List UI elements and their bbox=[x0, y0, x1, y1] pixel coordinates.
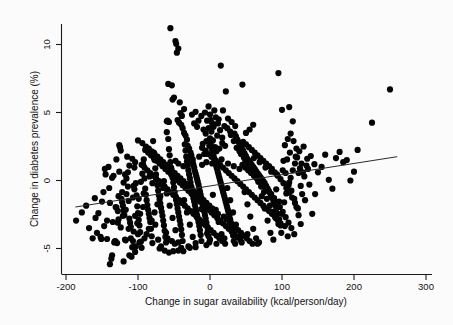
x-tick-label: -200 bbox=[56, 281, 75, 292]
data-point bbox=[190, 234, 196, 240]
data-point bbox=[177, 99, 183, 105]
data-point bbox=[119, 189, 125, 195]
data-point bbox=[169, 238, 175, 244]
data-point bbox=[308, 153, 314, 159]
data-point bbox=[92, 195, 98, 201]
y-tick-label: 10 bbox=[41, 39, 52, 50]
data-point bbox=[220, 107, 226, 113]
data-point bbox=[244, 201, 250, 207]
data-point bbox=[126, 252, 132, 258]
data-point bbox=[257, 159, 263, 165]
data-point bbox=[103, 171, 109, 177]
data-point bbox=[172, 227, 178, 233]
data-point bbox=[286, 104, 292, 110]
data-point bbox=[344, 157, 350, 163]
data-point bbox=[285, 233, 291, 239]
data-point bbox=[123, 207, 129, 213]
data-point bbox=[141, 235, 147, 241]
data-point bbox=[224, 185, 230, 191]
data-point bbox=[190, 156, 196, 162]
data-point bbox=[329, 186, 335, 192]
data-point bbox=[301, 143, 307, 149]
data-point bbox=[203, 159, 209, 165]
data-point bbox=[288, 130, 294, 136]
data-point bbox=[280, 167, 286, 173]
data-point bbox=[73, 218, 79, 224]
data-point bbox=[169, 215, 175, 221]
data-point bbox=[187, 222, 193, 228]
data-point bbox=[92, 215, 98, 221]
data-point bbox=[125, 184, 131, 190]
data-point bbox=[244, 231, 250, 237]
data-point bbox=[217, 127, 223, 133]
data-point bbox=[161, 222, 167, 228]
data-point bbox=[273, 186, 279, 192]
data-point bbox=[177, 110, 183, 116]
data-point bbox=[210, 192, 216, 198]
data-point bbox=[290, 138, 296, 144]
data-point bbox=[298, 183, 304, 189]
data-point bbox=[86, 225, 92, 231]
data-point bbox=[194, 124, 200, 130]
data-point bbox=[154, 201, 160, 207]
data-point bbox=[295, 212, 301, 218]
data-point bbox=[140, 204, 146, 210]
data-point bbox=[113, 204, 119, 210]
x-tick-label: 300 bbox=[418, 281, 434, 292]
data-point bbox=[107, 261, 113, 267]
data-point bbox=[302, 197, 308, 203]
data-point bbox=[293, 145, 299, 151]
data-point bbox=[109, 252, 115, 258]
data-point bbox=[99, 198, 105, 204]
y-tick-label: 0 bbox=[41, 178, 52, 183]
data-point bbox=[210, 137, 216, 143]
data-point bbox=[293, 154, 299, 160]
data-point bbox=[193, 109, 199, 115]
data-point bbox=[289, 194, 295, 200]
data-point bbox=[337, 149, 343, 155]
data-point bbox=[287, 150, 293, 156]
data-point bbox=[205, 103, 211, 109]
data-point bbox=[219, 135, 225, 141]
data-point bbox=[184, 137, 190, 143]
data-point bbox=[351, 169, 357, 175]
data-point bbox=[290, 118, 296, 124]
data-point bbox=[114, 240, 120, 246]
x-tick-label: 100 bbox=[274, 281, 290, 292]
chart-figure: -200-1000100200300 -50510 Change in suga… bbox=[0, 0, 453, 325]
data-point bbox=[208, 117, 214, 123]
data-point bbox=[171, 94, 177, 100]
data-point bbox=[105, 164, 111, 170]
data-point bbox=[239, 82, 245, 88]
data-point bbox=[288, 225, 294, 231]
data-point bbox=[311, 161, 317, 167]
data-point bbox=[254, 241, 260, 247]
data-point bbox=[231, 138, 237, 144]
data-point bbox=[207, 237, 213, 243]
data-point bbox=[236, 166, 242, 172]
data-point bbox=[326, 177, 332, 183]
data-point bbox=[223, 88, 229, 94]
data-point bbox=[286, 179, 292, 185]
data-point bbox=[242, 158, 248, 164]
data-point bbox=[155, 237, 161, 243]
data-point bbox=[136, 239, 142, 245]
data-point bbox=[121, 258, 127, 264]
data-point bbox=[146, 226, 152, 232]
data-point bbox=[225, 116, 231, 122]
data-point bbox=[312, 191, 318, 197]
data-point bbox=[262, 164, 268, 170]
data-point bbox=[270, 237, 276, 243]
data-point bbox=[131, 186, 137, 192]
data-point bbox=[130, 238, 136, 244]
data-point bbox=[275, 70, 281, 76]
data-point bbox=[150, 138, 156, 144]
data-point bbox=[227, 197, 233, 203]
data-point bbox=[79, 209, 85, 215]
x-tick-label: -100 bbox=[128, 281, 147, 292]
data-point bbox=[187, 245, 193, 251]
data-point bbox=[322, 152, 328, 158]
data-point bbox=[284, 156, 290, 162]
data-point bbox=[218, 156, 224, 162]
data-point bbox=[211, 107, 217, 113]
